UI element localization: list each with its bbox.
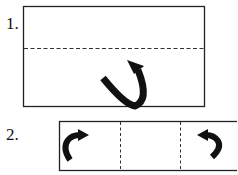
folding-diagram: 1. 2. — [0, 0, 237, 175]
curved-arrow-right-icon — [65, 129, 89, 160]
diagram-graphics — [0, 0, 237, 175]
step-2-paper — [60, 122, 238, 171]
curved-up-arrow-icon — [103, 60, 144, 106]
curved-arrow-left-icon — [197, 129, 219, 157]
